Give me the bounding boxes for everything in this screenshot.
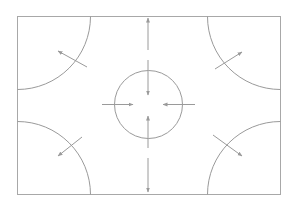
bottom-right-corner-arc [207, 122, 280, 195]
arrow-bottom-right-outward-icon [213, 135, 242, 156]
diagram-canvas [0, 0, 296, 204]
bottom-left-corner-arc [18, 122, 91, 195]
frame-rectangle [18, 17, 281, 195]
top-left-corner-arc [18, 17, 91, 90]
top-right-corner-arc [208, 17, 281, 90]
diagram-svg [0, 0, 296, 204]
arrow-top-right-outward-icon [215, 52, 242, 69]
